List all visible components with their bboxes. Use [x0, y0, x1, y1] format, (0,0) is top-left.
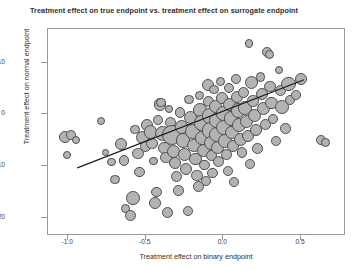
bubble-chart-figure: Treatment effect on true endpoint vs. tr… — [0, 0, 362, 270]
y-tick-label: 0 — [0, 109, 5, 116]
x-tick-mark — [145, 235, 146, 240]
y-axis-label: Treatment effect on normal endpoint — [22, 7, 31, 167]
x-tick-mark — [222, 235, 223, 240]
regression-line-layer — [48, 29, 344, 234]
y-tick-label: -10 — [0, 161, 5, 168]
y-tick-label: -20 — [0, 213, 5, 220]
y-tick-label: 10 — [0, 58, 5, 65]
chart-title: Treatment effect on true endpoint vs. tr… — [30, 6, 298, 15]
x-axis-label: Treatment effect on binary endpoint — [47, 252, 345, 261]
plot-area — [47, 28, 345, 235]
x-tick-mark — [67, 235, 68, 240]
x-tick-mark — [300, 235, 301, 240]
regression-line — [77, 80, 304, 168]
